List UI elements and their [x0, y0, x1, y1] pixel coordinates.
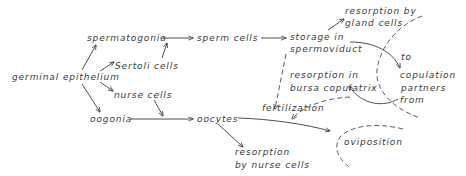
- node-resorption-gland-line1: resorption by: [345, 5, 417, 17]
- arrow-nurse-to-edge: [154, 100, 163, 116]
- arrow-storage-to-gland: [328, 19, 344, 30]
- node-oviposition: oviposition: [344, 136, 403, 148]
- node-germinal-epithelium: germinal epithelium: [12, 71, 120, 83]
- node-resorption-bursa-line1: resorption in: [290, 69, 359, 81]
- node-resorption-gland-line2: gland cells: [345, 17, 403, 29]
- node-sperm-cells: sperm cells: [197, 32, 258, 44]
- node-storage-line2: spermoviduct: [290, 43, 362, 55]
- dashed-arrow-storage-to-fertilization: [275, 54, 286, 109]
- node-resorption-bursa-line2: bursa copulatrix: [290, 82, 378, 94]
- node-oocytes: oocytes: [197, 113, 238, 125]
- node-copulation-line1: copulation: [400, 69, 456, 81]
- arrow-sertoli-to-edge: [162, 43, 167, 58]
- node-sertoli-cells: Sertoli cells: [115, 60, 179, 72]
- arrow-germinal-to-oogonia: [82, 84, 100, 112]
- node-spermatogonia: spermatogonia: [87, 32, 167, 44]
- node-resorption-nurse-line1: resorption: [235, 146, 290, 158]
- node-fertilization: fertilization: [262, 102, 325, 114]
- edge-label-from: from: [400, 94, 425, 106]
- arrow-oocytes-to-resorption: [218, 124, 243, 147]
- node-storage-line1: storage in: [290, 31, 344, 43]
- node-copulation-line2: partners: [401, 82, 446, 94]
- arrow-germinal-to-spermatogonia: [82, 45, 96, 70]
- edge-label-to: to: [401, 51, 412, 63]
- arrow-germinal-to-sertoli: [100, 62, 114, 71]
- node-oogonia: oogonia: [90, 113, 132, 125]
- node-resorption-nurse-line2: by nurse cells: [235, 159, 310, 171]
- reproduction-flow-diagram: germinal epithelium spermatogonia Sertol…: [0, 0, 466, 176]
- arrow-germinal-to-nurse: [100, 82, 113, 91]
- arrow-oocytes-to-oviposition: [238, 118, 330, 131]
- node-nurse-cells: nurse cells: [114, 89, 172, 101]
